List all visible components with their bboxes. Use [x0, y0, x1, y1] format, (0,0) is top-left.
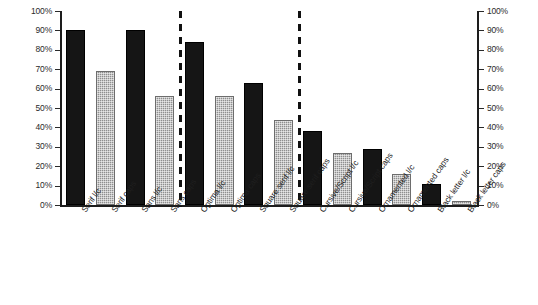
- bar-shadow: [204, 44, 208, 207]
- y-axis-left-tick: [55, 11, 60, 12]
- y-axis-right-tick: [479, 69, 484, 70]
- y-axis-left-tick-label: 10%: [14, 181, 52, 190]
- bar-chart: 100%100%90%90%80%80%70%70%60%60%50%50%40…: [0, 0, 538, 305]
- y-axis-right-tick: [479, 89, 484, 90]
- y-axis-right-tick-label: 80%: [487, 45, 503, 54]
- bar-shadow: [85, 32, 89, 207]
- y-axis-right-tick-label: 0%: [487, 201, 499, 210]
- y-axis-left-tick-label: 50%: [14, 104, 52, 113]
- y-axis-right-tick-label: 50%: [487, 104, 503, 113]
- y-axis-right-tick: [479, 147, 484, 148]
- y-axis-right-tick: [479, 205, 484, 206]
- y-axis-right-tick: [479, 11, 484, 12]
- y-axis-right-tick-label: 40%: [487, 123, 503, 132]
- y-axis-left-tick: [55, 108, 60, 109]
- bar-shadow: [145, 32, 149, 207]
- y-axis-left-tick-label: 60%: [14, 84, 52, 93]
- y-axis-left-tick: [55, 186, 60, 187]
- y-axis-left-tick-label: 40%: [14, 123, 52, 132]
- y-axis-left-tick-label: 20%: [14, 162, 52, 171]
- y-axis-left-tick: [55, 89, 60, 90]
- bar-body: [96, 71, 115, 205]
- y-axis-left-tick-label: 100%: [14, 7, 52, 16]
- bar-body: [66, 30, 85, 205]
- y-axis-left-tick-label: 90%: [14, 26, 52, 35]
- y-axis-right-tick: [479, 166, 484, 167]
- bar-shadow: [263, 85, 267, 207]
- y-axis-left-tick-label: 80%: [14, 45, 52, 54]
- y-axis-right-tick-label: 90%: [487, 26, 503, 35]
- bar-shadow: [115, 73, 119, 207]
- y-axis-left-tick: [55, 166, 60, 167]
- y-axis-right-tick-label: 60%: [487, 84, 503, 93]
- y-axis-left-tick: [55, 50, 60, 51]
- y-axis-left-tick-label: 0%: [14, 201, 52, 210]
- y-axis-left-tick-label: 70%: [14, 65, 52, 74]
- y-axis-right-tick: [479, 108, 484, 109]
- y-axis-left-tick: [55, 30, 60, 31]
- y-axis-left-tick: [55, 127, 60, 128]
- y-axis-right-tick-label: 70%: [487, 65, 503, 74]
- y-axis-left-tick-label: 30%: [14, 142, 52, 151]
- y-axis-left-tick: [55, 69, 60, 70]
- bar: [66, 30, 85, 205]
- y-axis-left-tick: [55, 205, 60, 206]
- y-axis-right-tick-label: 30%: [487, 142, 503, 151]
- bar: [96, 71, 115, 205]
- plot-area: [62, 11, 477, 205]
- bar-shadow: [234, 98, 238, 207]
- y-axis-right-tick-label: 100%: [487, 7, 508, 16]
- y-axis-right-tick: [479, 50, 484, 51]
- y-axis-left-tick: [55, 147, 60, 148]
- y-axis-right-tick: [479, 127, 484, 128]
- bar-shadow: [174, 98, 178, 207]
- y-axis-right-tick: [479, 30, 484, 31]
